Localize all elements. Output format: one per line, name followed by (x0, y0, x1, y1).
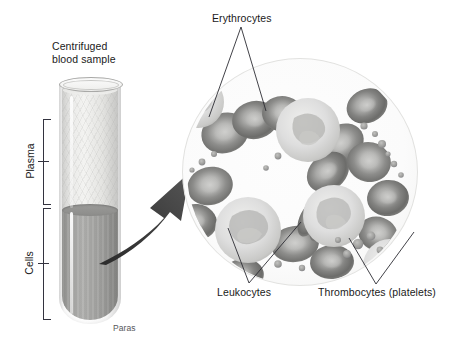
blood-cells-illustration (182, 58, 418, 286)
plasma-label: Plasma (24, 129, 36, 193)
credit-text: Paras (113, 322, 136, 335)
cells-bracket-tick (38, 263, 49, 264)
leukocytes-label: Leukocytes (217, 286, 271, 299)
plasma-bracket (43, 119, 51, 205)
tube-highlight-upper (70, 96, 73, 208)
tube-highlight-lower (70, 212, 73, 314)
magnified-blood-view (182, 58, 418, 286)
thrombocytes-label: Thrombocytes (platelets) (318, 286, 436, 299)
blood-composition-figure: Centrifuged blood sample Plasma Cells Pa… (0, 0, 460, 348)
tube-rim-inner-ellipse (63, 80, 119, 90)
figure-title: Centrifuged blood sample (52, 40, 116, 66)
cells-label: Cells (23, 239, 35, 287)
cells-bracket (43, 208, 51, 320)
erythrocytes-label: Erythrocytes (212, 12, 272, 25)
plasma-bracket-tick (38, 161, 49, 162)
